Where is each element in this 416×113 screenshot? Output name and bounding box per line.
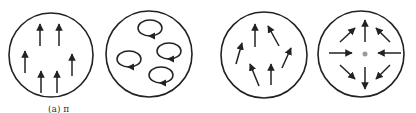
panel-boundary-circle [9, 13, 93, 97]
arrow-icon [340, 28, 355, 42]
vortex-loop-icon [157, 43, 181, 63]
panel-a-uniform-parallel-flow [9, 13, 93, 97]
panel-boundary-circle [318, 11, 404, 97]
panel-d-saddle-point-flow [318, 11, 404, 97]
arrow-icon [282, 48, 291, 68]
panel-b-vortices [106, 11, 192, 97]
flow-pattern-figure [0, 0, 416, 113]
arrow-icon [268, 26, 279, 46]
vortex-loop-icon [117, 51, 141, 71]
arrow-icon [376, 28, 390, 42]
figure-caption-partial: (a) π [48, 104, 69, 113]
arrow-icon [340, 65, 355, 79]
panel-boundary-circle [221, 12, 307, 98]
arrow-icon [250, 64, 259, 86]
arrow-icon [236, 43, 242, 64]
arrow-icon [376, 65, 390, 79]
vortex-loop-icon [138, 20, 162, 40]
vortex-loop-icon [149, 67, 173, 87]
panel-c-random-upward-flow [221, 12, 307, 98]
center-point-dot [363, 52, 368, 57]
